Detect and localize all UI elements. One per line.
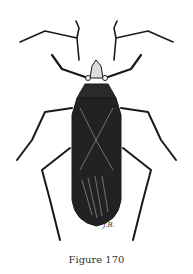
head xyxy=(90,60,103,78)
pronotum xyxy=(77,84,116,98)
left-eye xyxy=(86,76,91,81)
right-front-leg xyxy=(105,55,141,78)
figure-caption: Figure 170 xyxy=(0,254,193,265)
right-antenna xyxy=(114,21,173,60)
left-hind-leg xyxy=(42,148,70,240)
left-front-leg xyxy=(52,55,88,78)
right-hind-leg xyxy=(123,148,151,240)
artist-initials: J.B. xyxy=(103,221,115,229)
figure: J.B. Figure 170 xyxy=(0,0,193,274)
body xyxy=(72,98,121,226)
right-eye xyxy=(103,76,108,81)
insect-illustration xyxy=(0,0,193,246)
left-antenna xyxy=(20,21,79,60)
